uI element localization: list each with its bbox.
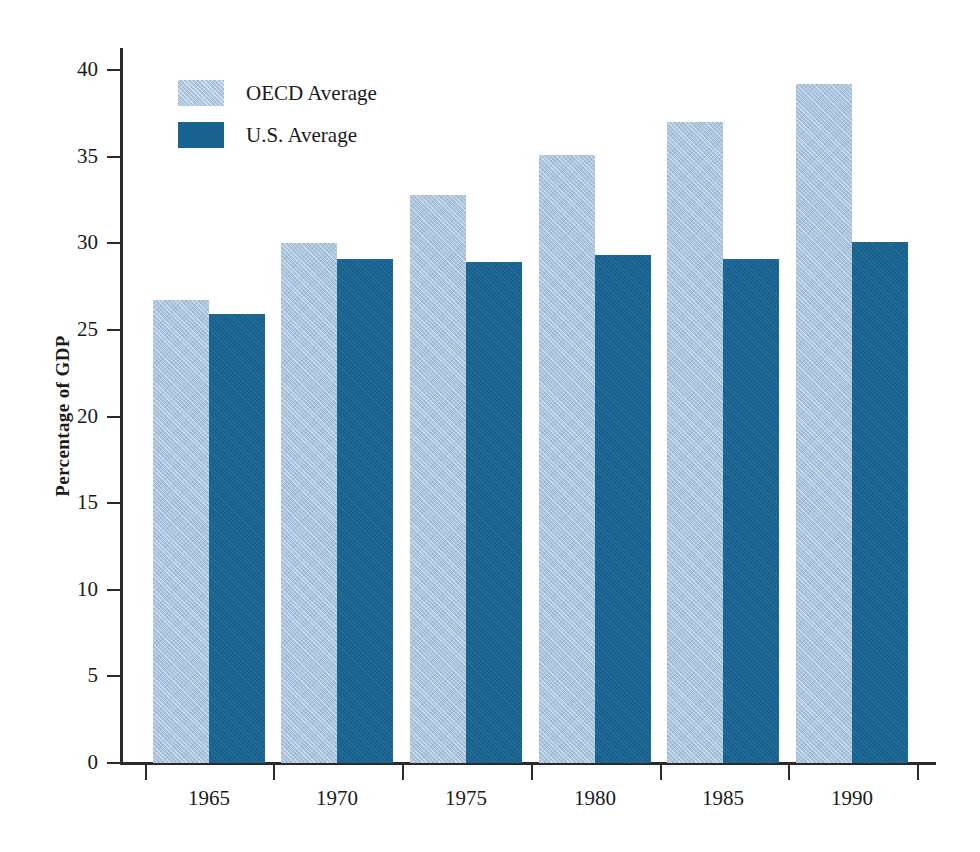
bar-oecd-1970 xyxy=(281,243,337,763)
y-tick-label-40: 40 xyxy=(52,59,98,80)
y-tick-30 xyxy=(107,242,121,244)
y-tick-label-25: 25 xyxy=(52,319,98,340)
x-tick-label-1990: 1990 xyxy=(792,788,912,809)
bar-us-1980 xyxy=(595,255,651,763)
x-tick-label-1980: 1980 xyxy=(535,788,655,809)
bar-oecd-1975 xyxy=(410,195,466,763)
y-tick-5 xyxy=(107,675,121,677)
y-tick-label-10: 10 xyxy=(52,579,98,600)
x-tick-1970 xyxy=(273,765,275,780)
y-tick-15 xyxy=(107,502,121,504)
bar-us-1985 xyxy=(723,259,779,763)
y-tick-label-0: 0 xyxy=(52,752,98,773)
bar-chart: Percentage of GDP 0510152025303540 19651… xyxy=(0,0,980,852)
y-tick-label-20: 20 xyxy=(52,406,98,427)
y-tick-0 xyxy=(107,762,121,764)
x-tick-label-1975: 1975 xyxy=(406,788,526,809)
bar-oecd-1965 xyxy=(153,300,209,763)
y-tick-35 xyxy=(107,156,121,158)
x-tick-1980 xyxy=(531,765,533,780)
bar-us-1990 xyxy=(852,242,908,763)
legend-label-us: U.S. Average xyxy=(246,125,357,146)
x-tick-label-1965: 1965 xyxy=(149,788,269,809)
bar-oecd-1985 xyxy=(667,122,723,763)
bar-oecd-1980 xyxy=(539,155,595,763)
y-tick-20 xyxy=(107,416,121,418)
bar-oecd-1990 xyxy=(796,84,852,763)
x-tick-label-1970: 1970 xyxy=(277,788,397,809)
legend-swatch-us-icon xyxy=(178,122,224,148)
legend-item-oecd: OECD Average xyxy=(178,72,377,114)
y-tick-label-5: 5 xyxy=(52,665,98,686)
bar-us-1970 xyxy=(337,259,393,763)
y-tick-10 xyxy=(107,589,121,591)
x-tick-1965 xyxy=(145,765,147,780)
y-tick-label-35: 35 xyxy=(52,146,98,167)
y-tick-label-30: 30 xyxy=(52,232,98,253)
y-tick-25 xyxy=(107,329,121,331)
x-tick-1985 xyxy=(660,765,662,780)
legend-swatch-oecd-icon xyxy=(178,80,224,106)
legend-item-us: U.S. Average xyxy=(178,114,377,156)
bar-us-1975 xyxy=(466,262,522,763)
legend-label-oecd: OECD Average xyxy=(246,83,377,104)
x-tick-end xyxy=(917,765,919,780)
bar-us-1965 xyxy=(209,314,265,763)
chart-legend: OECD Average U.S. Average xyxy=(178,72,377,156)
y-tick-40 xyxy=(107,69,121,71)
y-tick-label-15: 15 xyxy=(52,492,98,513)
x-tick-1975 xyxy=(402,765,404,780)
x-tick-1990 xyxy=(788,765,790,780)
x-tick-label-1985: 1985 xyxy=(663,788,783,809)
